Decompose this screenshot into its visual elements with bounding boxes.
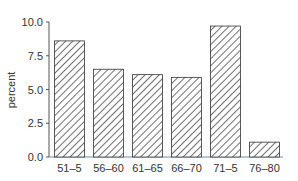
bar xyxy=(55,41,85,157)
y-axis-label: percent xyxy=(5,72,17,109)
bar xyxy=(94,69,124,157)
bars xyxy=(55,26,280,157)
x-axis-labels: 51–556–6061–6566–7071–576–80 xyxy=(57,162,280,174)
y-tick-label: 0.0 xyxy=(28,151,43,163)
y-tick-label: 5.0 xyxy=(28,84,43,96)
x-tick-label: 66–70 xyxy=(171,162,202,174)
y-tick-label: 7.5 xyxy=(28,50,43,62)
x-tick-label: 71–5 xyxy=(213,162,237,174)
bar xyxy=(133,75,163,157)
bar-chart: 0.02.55.07.510.0 51–556–6061–6566–7071–5… xyxy=(0,0,298,181)
x-tick-label: 76–80 xyxy=(249,162,280,174)
x-tick-label: 51–5 xyxy=(57,162,81,174)
y-tick-label: 10.0 xyxy=(22,16,43,28)
bar xyxy=(211,26,241,157)
x-tick-label: 56–60 xyxy=(93,162,124,174)
bar xyxy=(172,77,202,157)
x-tick-label: 61–65 xyxy=(132,162,163,174)
bar xyxy=(250,142,280,157)
y-tick-label: 2.5 xyxy=(28,117,43,129)
